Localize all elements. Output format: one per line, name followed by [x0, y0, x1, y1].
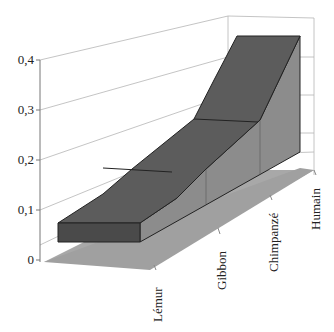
- y-tick-2: 0,2: [0, 152, 34, 168]
- y-axis-ticks: [36, 60, 40, 260]
- x-tick-gibbon: Gibbon: [214, 251, 230, 290]
- y-tick-0: 0: [0, 252, 34, 268]
- x-tick-chimpanze: Chimpanzé: [266, 213, 282, 272]
- y-tick-1: 0,1: [0, 202, 34, 218]
- area-chart-3d: 0 0,1 0,2 0,3 0,4 Lémur Gibbon Chimpanzé…: [0, 0, 334, 332]
- chart-canvas: [0, 0, 334, 332]
- area-front-face: [58, 223, 140, 242]
- x-tick-humain: Humain: [308, 188, 324, 230]
- y-tick-3: 0,3: [0, 102, 34, 118]
- y-tick-4: 0,4: [0, 52, 34, 68]
- x-tick-lemur: Lémur: [150, 287, 166, 322]
